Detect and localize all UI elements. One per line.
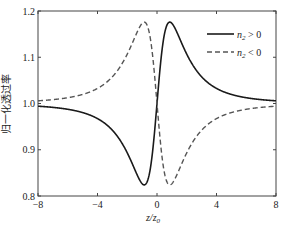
x-axis-label: z/z0 bbox=[145, 212, 161, 225]
legend: n2 > 0n2 < 0 bbox=[207, 29, 261, 60]
z-scan-chart: −8−40480.80.91.01.11.2 n2 > 0n2 < 0 z/z0… bbox=[0, 0, 282, 229]
x-tick-label: −4 bbox=[92, 199, 103, 210]
x-tick-label: 8 bbox=[274, 199, 279, 210]
y-tick-label: 0.8 bbox=[23, 191, 36, 202]
y-axis-label: 归一化透过率 bbox=[0, 74, 12, 134]
y-tick-label: 1.1 bbox=[23, 52, 36, 63]
legend-label: n2 > 0 bbox=[237, 29, 261, 42]
x-tick-label: 4 bbox=[214, 199, 219, 210]
y-tick-label: 1.0 bbox=[23, 98, 36, 109]
y-tick-label: 0.9 bbox=[23, 144, 36, 155]
y-tick-label: 1.2 bbox=[23, 6, 36, 17]
x-tick-label: 0 bbox=[155, 199, 160, 210]
legend-label: n2 < 0 bbox=[237, 47, 261, 60]
